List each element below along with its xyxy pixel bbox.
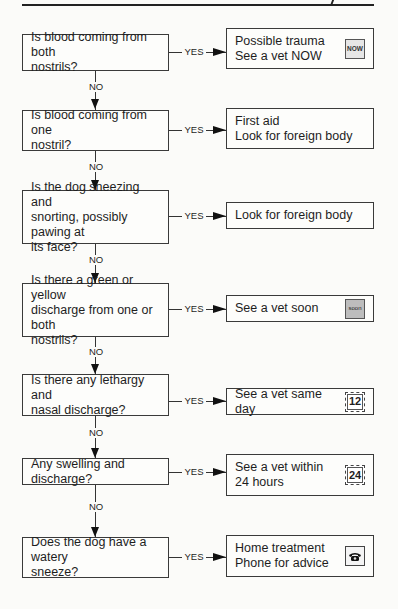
answer-text: First aid Look for foreign body	[235, 114, 352, 144]
clock-12-icon: 12	[345, 392, 365, 412]
yes-label: YES	[182, 396, 206, 406]
answer-box-1: Possible trauma See a vet NOW NOW	[226, 28, 374, 69]
question-text: Is blood coming from one nostril?	[31, 108, 160, 153]
yes-label: YES	[182, 125, 206, 135]
no-label: NO	[86, 347, 106, 357]
yes-label: YES	[182, 304, 206, 314]
arrow-right-icon	[213, 553, 226, 561]
answer-box-4: See a vet soon soon	[226, 295, 374, 322]
no-label: NO	[86, 428, 106, 438]
answer-text: See a vet within 24 hours	[235, 460, 323, 490]
answer-box-3: Look for foreign body	[226, 202, 374, 229]
no-label: NO	[86, 162, 106, 172]
no-label: NO	[86, 502, 106, 512]
answer-text: Possible trauma See a vet NOW	[235, 34, 325, 64]
arrow-right-icon	[213, 48, 226, 56]
yes-label: YES	[182, 211, 206, 221]
phone-icon	[345, 546, 365, 566]
question-text: Does the dog have a watery sneeze?	[31, 535, 160, 580]
arrow-right-icon	[213, 468, 226, 476]
soon-icon: soon	[345, 299, 365, 319]
question-box-1: Is blood coming from both nostrils?	[22, 34, 169, 71]
arrow-right-icon	[213, 126, 226, 134]
now-icon: NOW	[345, 39, 365, 59]
answer-box-2: First aid Look for foreign body	[226, 108, 374, 149]
arrow-right-icon	[213, 305, 226, 313]
question-box-3: Is the dog sneezing and snorting, possib…	[22, 190, 169, 244]
yes-label: YES	[182, 467, 206, 477]
yes-label: YES	[182, 47, 206, 57]
arrow-right-icon	[213, 212, 226, 220]
yes-label: YES	[182, 552, 206, 562]
answer-text: Look for foreign body	[235, 208, 352, 223]
question-box-6: Any swelling and discharge?	[22, 458, 169, 485]
question-text: Any swelling and discharge?	[31, 457, 160, 487]
no-label: NO	[86, 82, 106, 92]
question-text: Is there any lethargy and nasal discharg…	[31, 373, 160, 418]
question-box-5: Is there any lethargy and nasal discharg…	[22, 374, 169, 416]
answer-text: See a vet soon	[235, 301, 318, 316]
question-box-7: Does the dog have a watery sneeze?	[22, 537, 169, 578]
no-label: NO	[86, 255, 106, 265]
question-text: Is blood coming from both nostrils?	[31, 30, 160, 75]
answer-box-7: Home treatment Phone for advice	[226, 535, 374, 577]
clock-24-icon: 24	[345, 465, 365, 485]
answer-text: See a vet same day	[235, 387, 345, 417]
answer-box-5: See a vet same day 12	[226, 388, 374, 415]
arrow-right-icon	[213, 397, 226, 405]
answer-box-6: See a vet within 24 hours 24	[226, 454, 374, 496]
answer-text: Home treatment Phone for advice	[235, 541, 329, 571]
question-box-2: Is blood coming from one nostril?	[22, 110, 169, 151]
question-box-4: Is there a green or yellow discharge fro…	[22, 283, 169, 337]
top-rule	[22, 4, 374, 6]
